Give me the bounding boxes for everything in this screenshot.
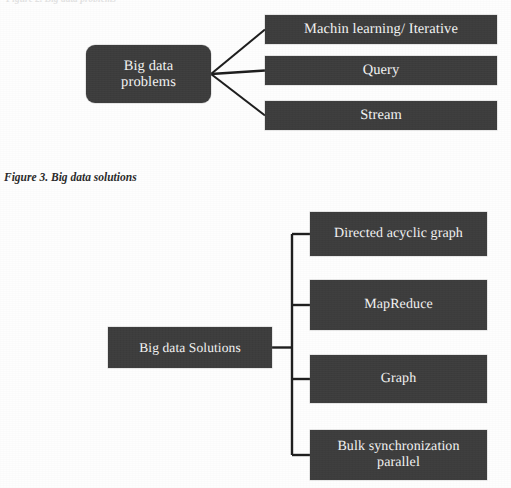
node-query-label: Query	[359, 62, 404, 78]
node-big-data-solutions[interactable]: Big data Solutions	[108, 327, 272, 368]
node-bulk-synchronization-parallel[interactable]: Bulk synchronization parallel	[310, 430, 487, 480]
node-stream[interactable]: Stream	[265, 101, 497, 130]
node-directed-acyclic-graph[interactable]: Directed acyclic graph	[310, 212, 487, 256]
connector-to-stream	[211, 74, 265, 116]
figure-caption: Figure 3. Big data solutions	[4, 171, 137, 183]
node-big-data-problems-label: Big data problems	[117, 58, 180, 90]
node-stream-label: Stream	[356, 107, 406, 123]
node-query[interactable]: Query	[265, 56, 497, 85]
figure-page: Figure 2. Big data problems Big data pro…	[0, 0, 511, 488]
node-mapreduce[interactable]: MapReduce	[310, 280, 487, 330]
node-directed-acyclic-graph-label: Directed acyclic graph	[330, 226, 467, 242]
node-graph-label: Graph	[377, 371, 421, 387]
node-machine-learning-iterative[interactable]: Machin learning/ Iterative	[265, 15, 497, 44]
clipped-header-text: Figure 2. Big data problems	[6, 0, 116, 4]
connector-to-query	[211, 71, 265, 75]
node-graph[interactable]: Graph	[310, 355, 487, 403]
connector-to-machine-learning	[211, 30, 265, 75]
node-bulk-synchronization-parallel-label: Bulk synchronization parallel	[333, 439, 463, 470]
node-machine-learning-iterative-label: Machin learning/ Iterative	[300, 21, 462, 37]
node-mapreduce-label: MapReduce	[360, 297, 437, 313]
node-big-data-solutions-label: Big data Solutions	[135, 340, 245, 355]
node-big-data-problems[interactable]: Big data problems	[86, 45, 211, 103]
